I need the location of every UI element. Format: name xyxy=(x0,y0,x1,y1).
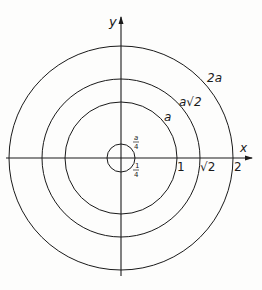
tick-1: 1 xyxy=(177,160,185,174)
diagram-canvas: y x 2a a√2 a a 4 1 4 1 √2 2 xyxy=(0,0,262,290)
concentric-circles-figure: y x 2a a√2 a a 4 1 4 1 √2 2 xyxy=(0,0,262,290)
label-a-over-4-den: 4 xyxy=(134,143,139,151)
label-a: a xyxy=(164,110,171,124)
label-1-over-4-den: 4 xyxy=(134,171,139,179)
tick-sqrt2: √2 xyxy=(200,160,215,174)
x-axis-label: x xyxy=(239,141,248,155)
label-a-over-4-num: a xyxy=(134,134,138,142)
y-axis-label: y xyxy=(108,14,117,29)
label-1-over-4-num: 1 xyxy=(135,162,139,170)
label-2a: 2a xyxy=(207,71,222,85)
label-a-sqrt2: a√2 xyxy=(179,95,202,109)
tick-2: 2 xyxy=(234,160,242,174)
